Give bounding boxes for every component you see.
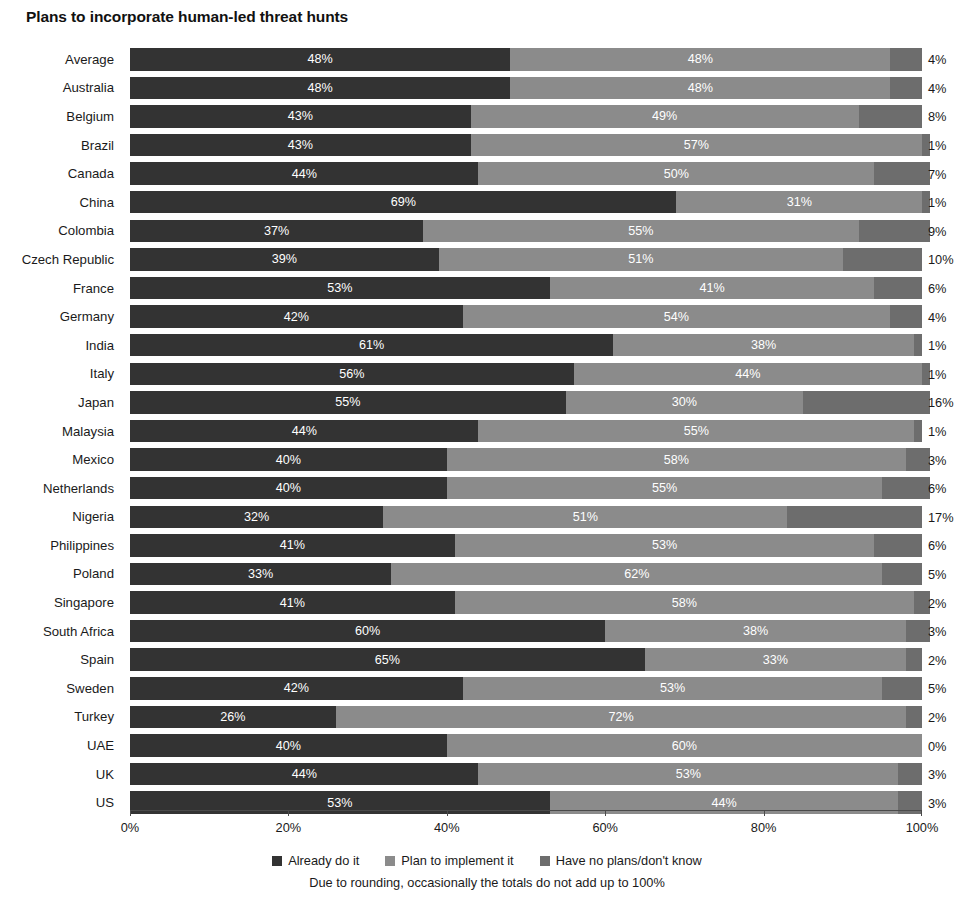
bar-track: 44%53% [130, 763, 922, 786]
bar-track: 56%44% [130, 363, 922, 386]
no-plans-value-label: 4% [928, 309, 947, 324]
bar-segment-already-do-it [130, 277, 550, 300]
no-plans-value-label: 5% [928, 681, 947, 696]
bar-segment-plan-to-implement-it [463, 677, 883, 700]
bar-track: 32%51% [130, 506, 922, 529]
bar-segment-have-no-plans-don-t-know [843, 248, 922, 271]
bar-segment-already-do-it [130, 363, 574, 386]
bar-segment-already-do-it [130, 477, 447, 500]
no-plans-value-label: 17% [928, 509, 954, 524]
x-axis-tick [130, 810, 131, 816]
x-axis-tick-label: 60% [592, 820, 618, 835]
category-label-australia: Australia [0, 74, 122, 103]
bar-segment-already-do-it [130, 506, 383, 529]
category-label-france: France [0, 274, 122, 303]
legend-item-have-no-plans-don-t-know[interactable]: Have no plans/don't know [540, 853, 702, 868]
bar-segment-plan-to-implement-it [550, 277, 875, 300]
legend-swatch-icon [540, 856, 550, 866]
bar-row: Average48%48%4% [0, 45, 974, 74]
bar-row: Australia48%48%4% [0, 74, 974, 103]
no-plans-value-label: 4% [928, 52, 947, 67]
category-label-average: Average [0, 45, 122, 74]
bar-row: France53%41%6% [0, 274, 974, 303]
bar-segment-already-do-it [130, 162, 478, 185]
bar-segment-already-do-it [130, 77, 510, 100]
bar-segment-plan-to-implement-it [605, 620, 906, 643]
category-label-germany: Germany [0, 302, 122, 331]
legend-item-plan-to-implement-it[interactable]: Plan to implement it [385, 853, 513, 868]
bar-segment-already-do-it [130, 563, 391, 586]
x-axis-tick [921, 810, 922, 816]
bar-track: 43%57% [130, 134, 922, 157]
bar-track: 44%50% [130, 162, 922, 185]
bar-segment-have-no-plans-don-t-know [874, 534, 922, 557]
bar-segment-have-no-plans-don-t-know [906, 648, 922, 671]
bar-track: 39%51% [130, 248, 922, 271]
bar-segment-already-do-it [130, 220, 423, 243]
bar-row: Canada44%50%7% [0, 159, 974, 188]
bar-segment-plan-to-implement-it [478, 763, 898, 786]
no-plans-value-label: 1% [928, 195, 947, 210]
bar-segment-plan-to-implement-it [455, 534, 875, 557]
chart-page: Plans to incorporate human-led threat hu… [0, 0, 974, 904]
no-plans-value-label: 6% [928, 281, 947, 296]
no-plans-value-label: 5% [928, 566, 947, 581]
bar-track: 40%55% [130, 477, 922, 500]
legend-item-already-do-it[interactable]: Already do it [272, 853, 359, 868]
bar-row: US53%44%3% [0, 788, 974, 817]
bar-segment-have-no-plans-don-t-know [898, 763, 922, 786]
no-plans-value-label: 4% [928, 80, 947, 95]
bar-track: 33%62% [130, 563, 922, 586]
legend-label: Already do it [288, 853, 359, 868]
bar-track: 41%58% [130, 591, 922, 614]
bar-row: Netherlands40%55%6% [0, 474, 974, 503]
no-plans-value-label: 1% [928, 424, 947, 439]
x-axis-tick [764, 810, 765, 816]
category-label-mexico: Mexico [0, 445, 122, 474]
no-plans-value-label: 7% [928, 166, 947, 181]
no-plans-value-label: 1% [928, 138, 947, 153]
page-title: Plans to incorporate human-led threat hu… [26, 8, 348, 26]
x-axis-tick-label: 20% [276, 820, 302, 835]
category-label-malaysia: Malaysia [0, 417, 122, 446]
category-label-poland: Poland [0, 560, 122, 589]
bar-segment-have-no-plans-don-t-know [882, 563, 922, 586]
bar-segment-have-no-plans-don-t-know [882, 677, 922, 700]
bar-segment-have-no-plans-don-t-know [906, 620, 930, 643]
bar-track: 44%55% [130, 420, 922, 443]
bar-track: 61%38% [130, 334, 922, 357]
x-axis-tick-label: 40% [434, 820, 460, 835]
no-plans-value-label: 10% [928, 252, 954, 267]
no-plans-value-label: 1% [928, 338, 947, 353]
no-plans-value-label: 0% [928, 738, 947, 753]
bar-row: Turkey26%72%2% [0, 703, 974, 732]
bar-track: 53%41% [130, 277, 922, 300]
bar-track: 48%48% [130, 77, 922, 100]
bar-segment-already-do-it [130, 105, 471, 128]
bar-row: Spain65%33%2% [0, 645, 974, 674]
bar-row: Mexico40%58%3% [0, 445, 974, 474]
bar-segment-have-no-plans-don-t-know [787, 506, 922, 529]
x-axis-tick-label: 80% [751, 820, 777, 835]
bar-segment-already-do-it [130, 591, 455, 614]
bar-segment-already-do-it [130, 305, 463, 328]
bar-segment-plan-to-implement-it [510, 77, 890, 100]
legend-swatch-icon [385, 856, 395, 866]
legend-swatch-icon [272, 856, 282, 866]
category-label-uae: UAE [0, 731, 122, 760]
bar-segment-plan-to-implement-it [423, 220, 859, 243]
plot-area: Average48%48%4%Australia48%48%4%Belgium4… [0, 45, 974, 810]
bar-segment-plan-to-implement-it [383, 506, 787, 529]
bar-segment-have-no-plans-don-t-know [914, 420, 922, 443]
bar-segment-already-do-it [130, 420, 478, 443]
category-label-spain: Spain [0, 645, 122, 674]
bar-segment-plan-to-implement-it [447, 448, 906, 471]
x-axis: 0%20%40%60%80%100% [130, 810, 922, 811]
bar-track: 43%49% [130, 105, 922, 128]
bar-segment-already-do-it [130, 734, 447, 757]
bar-segment-plan-to-implement-it [471, 134, 922, 157]
category-label-india: India [0, 331, 122, 360]
category-label-czech-republic: Czech Republic [0, 245, 122, 274]
bar-track: 55%30% [130, 391, 922, 414]
bar-segment-have-no-plans-don-t-know [890, 77, 922, 100]
